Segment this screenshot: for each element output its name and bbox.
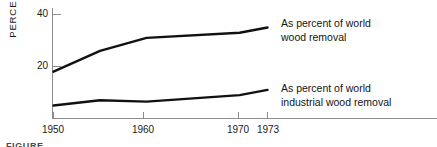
x-tick-label-1960: 1960 (127, 124, 159, 135)
clipped-figure-caption: FIGURE (6, 141, 44, 147)
series-annotation-industrial-wood-removal: As percent of world industrial wood remo… (281, 82, 391, 109)
y-axis-title: PERCENT (4, 0, 22, 50)
x-tick-label-1973: 1973 (252, 124, 284, 135)
series-line-world-wood-removal (54, 28, 268, 72)
x-tick-label-1950: 1950 (37, 124, 69, 135)
series-annotation-line-2: wood removal (281, 31, 371, 45)
figure-chart-container: PERCENT 40 20 1950 1960 1970 1973 As per… (0, 0, 437, 147)
y-tick-label-40: 40 (22, 8, 48, 19)
y-tick-label-20: 20 (22, 60, 48, 71)
series-annotation-line-1: As percent of world (281, 82, 391, 96)
series-annotation-world-wood-removal: As percent of world wood removal (281, 17, 371, 44)
series-line-industrial-wood-removal (54, 90, 268, 106)
series-annotation-line-1: As percent of world (281, 17, 371, 31)
series-annotation-line-2: industrial wood removal (281, 96, 391, 110)
x-tick-label-1970: 1970 (222, 124, 254, 135)
